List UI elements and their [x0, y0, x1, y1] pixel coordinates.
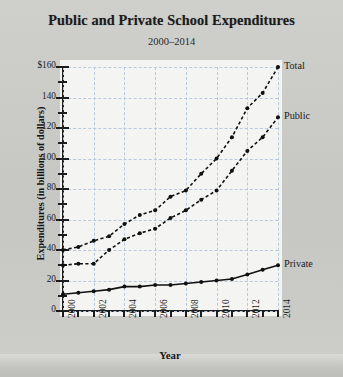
data-point-private	[61, 292, 65, 296]
data-point-public	[169, 216, 173, 220]
series-label-private: Private	[284, 258, 313, 269]
data-point-private	[261, 268, 265, 272]
data-point-public	[107, 248, 111, 252]
series-label-total: Total	[284, 60, 305, 71]
data-point-total	[215, 157, 219, 161]
data-point-total	[153, 208, 157, 212]
data-point-public	[184, 208, 188, 212]
data-point-public	[199, 198, 203, 202]
data-point-public	[122, 237, 126, 241]
data-point-total	[261, 91, 265, 95]
data-point-private	[230, 277, 234, 281]
data-point-private	[122, 285, 126, 289]
data-point-public	[261, 135, 265, 139]
series-line-total	[63, 67, 278, 250]
data-point-private	[184, 282, 188, 286]
data-point-total	[107, 234, 111, 238]
data-point-private	[276, 263, 280, 267]
data-point-total	[199, 172, 203, 176]
series-line-public	[63, 117, 278, 265]
data-point-public	[276, 115, 280, 119]
data-point-private	[199, 280, 203, 284]
series-plot	[0, 0, 343, 377]
data-point-total	[184, 189, 188, 193]
data-point-public	[230, 169, 234, 173]
series-line-private	[63, 265, 278, 294]
data-point-private	[138, 285, 142, 289]
series-label-public: Public	[284, 110, 310, 121]
data-point-public	[138, 231, 142, 235]
data-point-private	[245, 272, 249, 276]
data-point-public	[92, 262, 96, 266]
data-point-public	[245, 149, 249, 153]
data-point-total	[61, 248, 65, 252]
data-point-total	[245, 106, 249, 110]
data-point-public	[76, 262, 80, 266]
data-point-total	[122, 222, 126, 226]
data-point-private	[107, 288, 111, 292]
data-point-total	[230, 135, 234, 139]
data-point-total	[76, 245, 80, 249]
data-point-private	[92, 289, 96, 293]
data-point-public	[215, 189, 219, 193]
data-point-private	[76, 291, 80, 295]
data-point-public	[153, 227, 157, 231]
data-point-total	[276, 65, 280, 69]
data-point-private	[215, 279, 219, 283]
data-point-private	[169, 283, 173, 287]
line-chart-figure: Public and Private School Expenditures 2…	[0, 0, 343, 377]
data-point-total	[92, 239, 96, 243]
data-point-total	[138, 213, 142, 217]
data-point-total	[169, 195, 173, 199]
data-point-public	[61, 263, 65, 267]
data-point-private	[153, 283, 157, 287]
